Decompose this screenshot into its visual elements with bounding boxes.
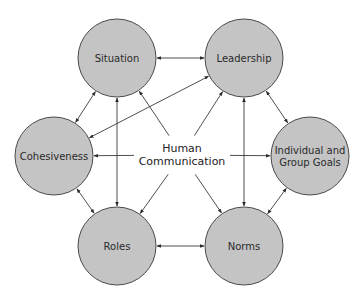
node-leadership: Leadership (205, 19, 283, 97)
arrow-center-norms (195, 174, 221, 213)
node-label: Individual and (275, 145, 346, 156)
node-cohesiveness: Cohesiveness (15, 117, 93, 195)
center-label-line2: Communication (139, 155, 226, 168)
arrow-situation-cohesiveness (76, 92, 96, 123)
node-label: Group Goals (279, 157, 341, 168)
node-label: Norms (228, 241, 261, 252)
node-roles: Roles (78, 207, 156, 285)
arrow-goals-norms (268, 188, 287, 213)
node-label: Leadership (217, 53, 272, 64)
node-label: Situation (95, 53, 140, 64)
center-label: Human Communication (139, 142, 226, 168)
node-goals: Individual andGroup Goals (271, 117, 349, 195)
node-label: Cohesiveness (20, 151, 89, 162)
node-norms: Norms (205, 207, 283, 285)
node-situation: Situation (78, 19, 156, 97)
arrow-center-situation (139, 91, 169, 136)
diagram-canvas: SituationLeadershipCohesivenessIndividua… (0, 0, 364, 299)
communication-diagram: SituationLeadershipCohesivenessIndividua… (0, 0, 364, 299)
node-label: Roles (104, 241, 131, 252)
center-label-line1: Human (162, 142, 202, 155)
arrow-center-roles (140, 174, 168, 213)
arrow-cohesiveness-roles (77, 189, 94, 213)
arrow-center-leadership (194, 92, 222, 136)
arrow-leadership-goals (266, 91, 287, 123)
